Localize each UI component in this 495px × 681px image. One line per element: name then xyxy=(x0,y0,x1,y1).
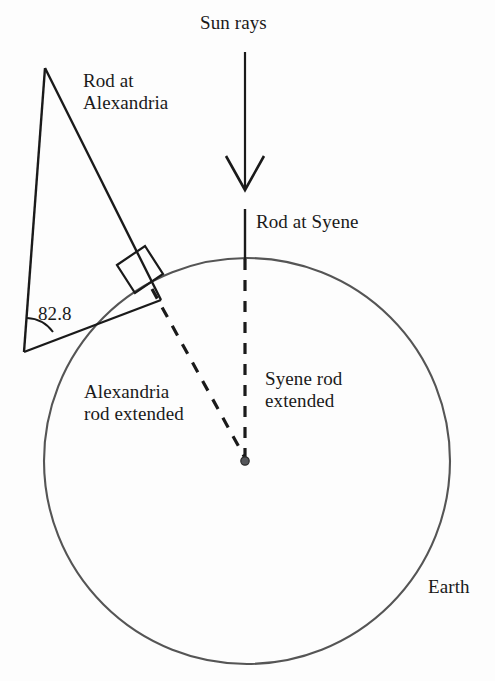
label-angle-value: 82.8 xyxy=(38,303,72,325)
label-alexandria-rod-extended: Alexandria rod extended xyxy=(84,381,184,425)
earth-center-dot xyxy=(241,457,249,465)
alexandria-rod-extended-dashed xyxy=(152,289,245,458)
label-syene-rod-extended: Syene rod extended xyxy=(265,368,342,412)
right-angle-marker xyxy=(117,246,163,293)
label-rod-at-alexandria: Rod at Alexandria xyxy=(83,70,168,114)
label-rod-at-syene: Rod at Syene xyxy=(256,211,359,233)
eratosthenes-diagram: Sun rays Rod at Alexandria Rod at Syene … xyxy=(0,0,495,681)
label-sun-rays: Sun rays xyxy=(200,12,267,34)
diagram-canvas xyxy=(0,0,495,681)
label-earth: Earth xyxy=(428,576,470,598)
